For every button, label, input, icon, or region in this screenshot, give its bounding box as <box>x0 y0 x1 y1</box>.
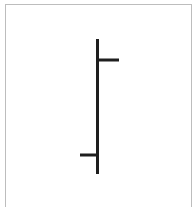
ohlc-bar-diagram <box>0 0 194 207</box>
